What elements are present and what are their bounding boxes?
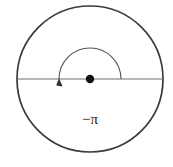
- angle-value-label: −π: [82, 111, 98, 127]
- negative-pi-arc: [59, 48, 121, 79]
- angle-diagram-figure: −π: [0, 0, 173, 167]
- angle-diagram-svg: −π: [0, 0, 173, 167]
- center-dot: [86, 75, 94, 83]
